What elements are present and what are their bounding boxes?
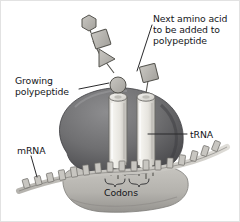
incoming-amino-acid — [139, 63, 158, 93]
amino-acid-diamond — [91, 29, 111, 49]
label-trna: tRNA — [190, 129, 213, 140]
label-codons: Codons — [104, 187, 138, 198]
translation-diagram-figure: Next amino acid to be added to polypepti… — [0, 0, 240, 222]
polypeptide-chain — [82, 15, 126, 93]
amino-acid-square — [139, 63, 158, 82]
label-next-amino-acid: Next amino acid to be added to polypepti… — [153, 13, 227, 47]
leader-line-mrna — [31, 156, 37, 177]
amino-acid-circle — [110, 77, 126, 93]
label-growing-polypeptide: Growing polypeptide — [15, 75, 69, 97]
leader-line-growing-polypeptide — [79, 83, 109, 89]
label-mrna: mRNA — [17, 145, 45, 156]
amino-acid-hexagon — [82, 15, 96, 31]
